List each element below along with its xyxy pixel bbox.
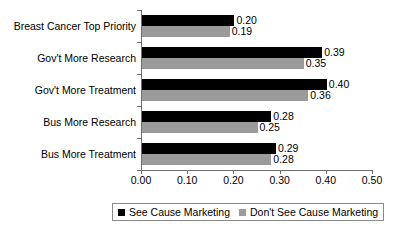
- bar-0-1: [142, 47, 322, 58]
- legend-label: See Cause Marketing: [129, 206, 230, 218]
- x-axis-line: [141, 170, 372, 171]
- x-axis-tick-label: 0.00: [131, 174, 151, 186]
- legend-item-0[interactable]: See Cause Marketing: [118, 206, 230, 218]
- category-label: Bus More Research: [0, 116, 136, 128]
- category-axis-labels: Breast Cancer Top PriorityGov't More Res…: [0, 10, 136, 170]
- bar-chart: Breast Cancer Top PriorityGov't More Res…: [0, 0, 395, 236]
- y-axis-tick: [137, 74, 141, 75]
- bar-0-3: [142, 111, 271, 122]
- x-axis-tick-label: 0.10: [177, 174, 197, 186]
- legend-item-1[interactable]: Don't See Cause Marketing: [239, 206, 378, 218]
- bar-0-4: [142, 143, 276, 154]
- legend-swatch-icon: [239, 209, 246, 216]
- legend-swatch-icon: [118, 209, 125, 216]
- category-label: Gov't More Treatment: [0, 84, 136, 96]
- bar-0-0: [142, 15, 234, 26]
- y-axis-tick: [137, 138, 141, 139]
- y-axis-tick: [137, 10, 141, 11]
- plot-area: 0.200.190.390.350.400.360.280.250.290.28: [141, 10, 372, 170]
- x-axis-tick-label: 0.20: [223, 174, 243, 186]
- category-label: Gov't More Research: [0, 52, 136, 64]
- bar-1-3: [142, 122, 258, 133]
- x-axis-tick-label: 0.50: [362, 174, 382, 186]
- legend-label: Don't See Cause Marketing: [250, 206, 378, 218]
- bar-value-label: 0.28: [273, 154, 293, 165]
- x-axis-tick-label: 0.30: [269, 174, 289, 186]
- bar-0-2: [142, 79, 327, 90]
- y-axis-tick: [137, 106, 141, 107]
- y-axis-tick: [137, 42, 141, 43]
- bar-value-label: 0.19: [232, 26, 252, 37]
- bar-1-1: [142, 58, 304, 69]
- bar-1-2: [142, 90, 308, 101]
- bar-value-label: 0.40: [329, 79, 349, 90]
- category-label: Bus More Treatment: [0, 148, 136, 160]
- x-axis-tick-label: 0.40: [316, 174, 336, 186]
- bar-1-4: [142, 154, 271, 165]
- bar-1-0: [142, 26, 230, 37]
- bar-value-label: 0.36: [310, 90, 330, 101]
- x-axis-tick-labels: 0.000.100.200.300.400.50: [141, 174, 372, 188]
- bar-value-label: 0.35: [306, 58, 326, 69]
- chart-legend: See Cause MarketingDon't See Cause Marke…: [112, 203, 384, 221]
- bar-value-label: 0.39: [324, 47, 344, 58]
- bar-value-label: 0.25: [260, 122, 280, 133]
- category-label: Breast Cancer Top Priority: [0, 20, 136, 32]
